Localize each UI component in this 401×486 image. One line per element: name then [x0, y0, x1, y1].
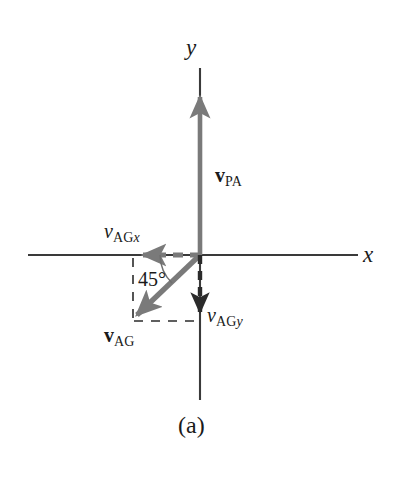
- v-agx-subscript-axis: x: [134, 230, 140, 245]
- v-agx-subscript-main: AG: [113, 230, 134, 245]
- angle-label-45deg: 45°: [138, 269, 166, 289]
- v-ag-base-symbol: v: [104, 324, 114, 346]
- vector-label-v-pa: vPA: [215, 165, 242, 189]
- vector-diagram-figure: y x vPA vAGx vAGy vAG 45° (a): [0, 0, 401, 486]
- figure-caption: (a): [178, 413, 205, 437]
- v-agy-base-symbol: v: [207, 304, 216, 326]
- vector-label-v-agy: vAGy: [207, 305, 243, 329]
- v-pa-subscript: PA: [225, 174, 242, 189]
- v-agy-subscript-axis: y: [237, 314, 243, 329]
- x-axis-label: x: [363, 243, 373, 266]
- v-agx-base-symbol: v: [104, 220, 113, 242]
- v-agy-subscript-main: AG: [216, 314, 237, 329]
- y-axis-label: y: [186, 36, 196, 59]
- vector-label-v-agx: vAGx: [104, 221, 140, 245]
- v-pa-base-symbol: v: [215, 164, 225, 186]
- v-ag-subscript: AG: [114, 334, 135, 349]
- vector-label-v-ag: vAG: [104, 325, 135, 349]
